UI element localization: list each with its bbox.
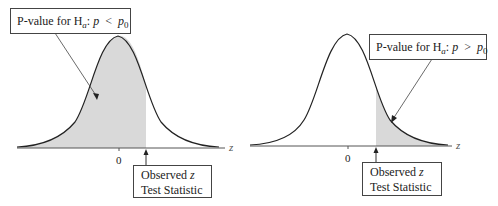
right-axis-label: z — [456, 139, 460, 151]
right-zero-tick-label: 0 — [345, 152, 351, 164]
left-observed-arrowhead — [144, 149, 149, 155]
right-pvalue-label: P-value for Ha: p > p0 — [369, 34, 487, 60]
label-p: p — [93, 14, 99, 28]
observed-line-1: Observed z — [370, 165, 434, 180]
left-observed-box: Observed z Test Statistic — [133, 165, 212, 198]
observed-var: z — [190, 168, 195, 182]
left-label-pointer — [55, 33, 97, 97]
label-op: > — [464, 40, 471, 54]
label-p0-sub: 0 — [483, 46, 488, 56]
right-observed-arrowhead — [374, 147, 379, 153]
label-text: P-value for H — [376, 40, 441, 54]
right-observed-box: Observed z Test Statistic — [362, 162, 442, 196]
label-p: p — [452, 40, 458, 54]
observed-text: Observed — [141, 168, 190, 182]
observed-var: z — [419, 165, 424, 179]
left-axis-label: z — [229, 141, 233, 153]
observed-line-1: Observed z — [141, 168, 204, 183]
label-op: < — [105, 14, 112, 28]
left-zero-tick-label: 0 — [116, 154, 122, 166]
observed-text: Observed — [370, 165, 419, 179]
left-shaded-region — [17, 36, 146, 148]
right-pointer-arrowhead — [391, 115, 397, 123]
label-p0-sub: 0 — [124, 20, 129, 30]
left-pvalue-label: P-value for Ha: p < p0 — [10, 8, 131, 34]
right-label-pointer — [393, 59, 432, 119]
label-text: P-value for H — [17, 14, 82, 28]
observed-line-2: Test Statistic — [370, 180, 434, 195]
observed-line-2: Test Statistic — [141, 183, 204, 198]
